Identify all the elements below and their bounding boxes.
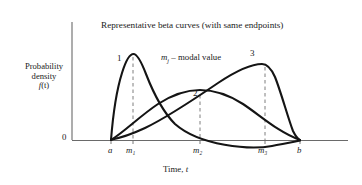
x-tick-label-m1: m₁: [126, 146, 135, 156]
beta-curve-3: [111, 64, 300, 140]
y-axis-function-arg: (t): [41, 80, 49, 90]
y-axis-title-line-3: f(t): [14, 81, 74, 91]
chart-title: Representative beta curves (with same en…: [101, 20, 283, 30]
x-tick-label-b: b: [297, 146, 301, 156]
beta-curves-figure: Representative beta curves (with same en…: [0, 0, 362, 185]
curve-label-1: 1: [117, 53, 122, 63]
modal-value-text: – modal value: [169, 52, 221, 62]
origin-label: 0: [62, 133, 66, 143]
modal-value-annotation: mj – modal value: [161, 53, 221, 65]
x-tick-label-m3: m₃: [258, 146, 267, 156]
beta-curve-1: [111, 54, 300, 147]
curve-label-3: 3: [250, 48, 255, 58]
x-axis-title-text: Time,: [163, 164, 186, 174]
x-axis-title: Time, t: [163, 165, 188, 175]
curve-label-2: 2: [193, 88, 198, 98]
y-axis-title: Probability density f(t): [14, 62, 74, 91]
x-axis-title-symbol: t: [186, 164, 188, 174]
x-tick-label-a: a: [108, 146, 112, 156]
beta-curve-2: [111, 90, 300, 140]
x-tick-label-m2: m₂: [193, 146, 202, 156]
